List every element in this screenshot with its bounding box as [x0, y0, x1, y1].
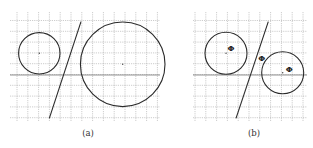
slanted-line: [49, 22, 81, 119]
phi-label: Φ: [228, 43, 235, 53]
circle-center-dot: [282, 72, 283, 73]
panel-b: ΦΦΦ(b): [193, 12, 307, 138]
phi-label: Φ: [258, 53, 265, 63]
phi-label: Φ: [286, 64, 293, 74]
circle-center-dot: [225, 53, 226, 54]
circle-center-dot: [122, 64, 123, 65]
panel-caption: (a): [82, 128, 94, 138]
panel-caption: (b): [248, 128, 260, 138]
panel-a: (a): [10, 12, 165, 138]
figure-canvas: (a) ΦΦΦ(b): [0, 0, 313, 148]
circle-center-dot: [39, 53, 40, 54]
slanted-line: [236, 22, 268, 119]
